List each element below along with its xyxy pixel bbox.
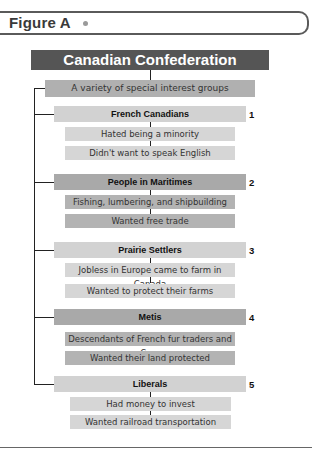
root-node: A variety of special interest groups <box>45 80 255 97</box>
connector-line <box>150 70 151 80</box>
group-point: Had money to invest <box>70 397 231 411</box>
group-header-french-canadians: French Canadians <box>54 106 246 122</box>
group-number: 2 <box>249 177 254 188</box>
group-header-liberals: Liberals <box>54 376 246 392</box>
figure-label: Figure A <box>9 14 71 31</box>
connector-line <box>34 114 54 115</box>
group-point: Didn't want to speak English <box>65 146 235 160</box>
group-number: 5 <box>249 379 254 390</box>
group-point: Wanted their land protected <box>65 351 235 365</box>
group-header-metis: Metis <box>54 309 246 325</box>
group-point: Descendants of French fur traders and Cr… <box>65 332 235 346</box>
group-point: Hated being a minority <box>65 127 235 141</box>
group-number: 1 <box>249 109 254 120</box>
group-header-people-in-maritimes: People in Maritimes <box>54 174 246 190</box>
bullet-dot-icon <box>83 21 88 26</box>
bottom-divider <box>0 447 312 448</box>
group-header-prairie-settlers: Prairie Settlers <box>54 242 246 258</box>
group-number: 3 <box>249 245 254 256</box>
connector-line <box>34 88 45 89</box>
connector-line <box>34 250 54 251</box>
group-point: Wanted to protect their farms <box>65 284 235 298</box>
diagram-title: Canadian Confederation <box>31 50 269 70</box>
group-point: Wanted free trade <box>65 214 235 228</box>
connector-line <box>34 182 54 183</box>
connector-line <box>150 277 151 283</box>
spine-line <box>34 88 35 385</box>
connector-line <box>34 384 54 385</box>
connector-line <box>34 317 54 318</box>
group-point: Wanted railroad transportation <box>70 415 231 429</box>
group-point: Jobless in Europe came to farm in Canada <box>65 263 235 277</box>
group-point: Fishing, lumbering, and shipbuilding <box>65 195 235 209</box>
group-number: 4 <box>249 312 254 323</box>
